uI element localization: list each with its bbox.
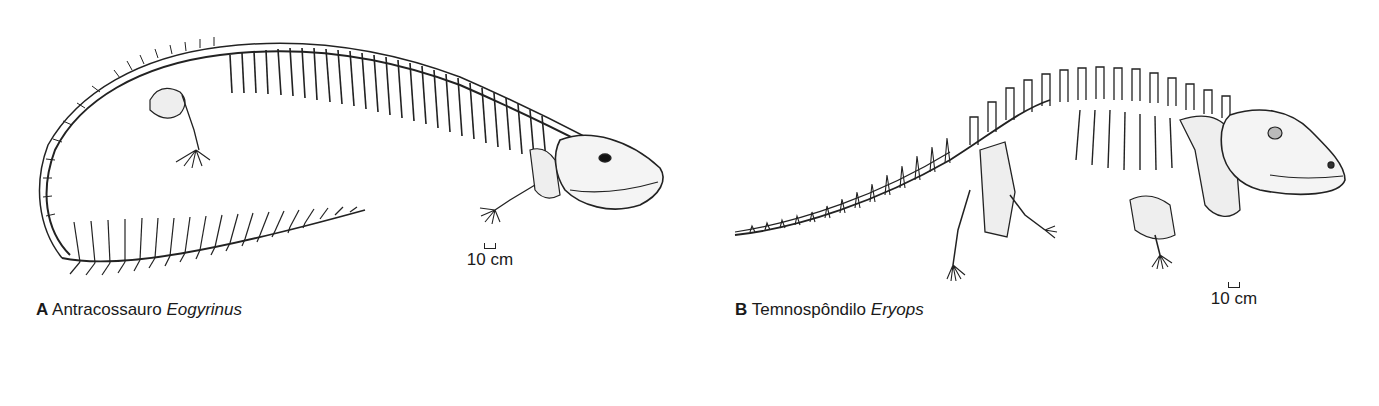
group-name: Antracossauro: [52, 300, 162, 319]
genus-name: Eogyrinus: [166, 300, 242, 319]
scale-bar-mark: [1228, 282, 1240, 288]
panel-a-eogyrinus: 10 cm A Antracossauro Eogyrinus: [0, 0, 700, 406]
genus-name: Eryops: [871, 300, 924, 319]
scale-label: 10 cm: [1199, 289, 1269, 309]
panel-a-caption: A Antracossauro Eogyrinus: [36, 300, 242, 320]
scale-bar-a: 10 cm: [455, 243, 525, 270]
panel-b-caption: B Temnospôndilo Eryops: [735, 300, 924, 320]
scale-label: 10 cm: [455, 250, 525, 270]
panel-letter: B: [735, 300, 747, 319]
eogyrinus-skeleton-illustration: [0, 0, 700, 300]
panel-letter: A: [36, 300, 48, 319]
group-name: Temnospôndilo: [752, 300, 866, 319]
scale-bar-mark: [484, 243, 496, 249]
eryops-skeleton-illustration: [700, 0, 1379, 300]
scale-bar-b: 10 cm: [1199, 282, 1269, 309]
panel-b-eryops: 10 cm B Temnospôndilo Eryops: [700, 0, 1379, 406]
